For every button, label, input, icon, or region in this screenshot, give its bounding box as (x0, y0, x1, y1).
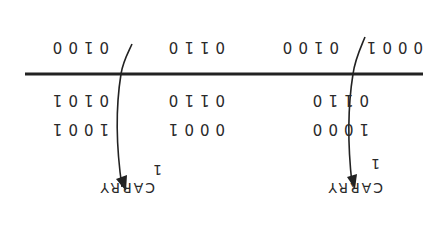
addend-1-digit: 1001 (47, 121, 109, 136)
addend-2-digit: 0101 (47, 92, 109, 107)
addend-2-digit: 0110 (163, 92, 225, 107)
carry-arrow-2 (117, 44, 132, 187)
carry-value-1: 1 (151, 163, 162, 177)
carry-label-1: CARRY (99, 181, 155, 195)
carry-arrow-1 (349, 37, 365, 184)
carry-value-2: 1 (369, 157, 380, 171)
sum-digit: 0100 (277, 39, 339, 54)
addend-1-digit: 0001 (163, 121, 225, 136)
addend-2-digit: 0110 (307, 92, 369, 107)
carry-label-2: CARRY (327, 181, 383, 195)
addend-1-digit: 1000 (307, 121, 369, 136)
sum-digit: 0110 (163, 39, 225, 54)
sum-digit: 0001 (361, 39, 423, 54)
sum-digit: 0100 (47, 39, 109, 54)
bcd-addition-diagram: CARRY CARRY 1 1 1000 0001 1001 0110 0110… (0, 0, 447, 229)
